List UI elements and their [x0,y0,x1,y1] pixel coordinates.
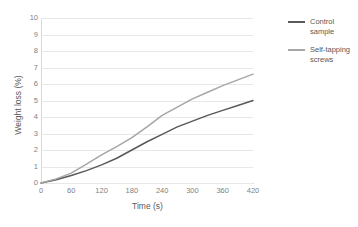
y-tick-label: 9 [4,31,38,39]
gridline [41,183,253,184]
legend-label: Control sample [310,17,354,36]
series-line [41,74,253,183]
legend-color-swatch [288,49,305,51]
x-tick-label: 120 [95,187,108,195]
y-tick-label: 0 [4,179,38,187]
x-tick-label: 180 [126,187,139,195]
x-tick-label: 60 [67,187,75,195]
x-tick-label: 0 [39,187,43,195]
series-line [41,101,253,184]
x-tick-label: 360 [216,187,229,195]
legend-color-swatch [288,21,305,23]
x-axis-title: Time (s) [41,201,254,211]
x-tick-label: 300 [186,187,199,195]
x-tick-label: 240 [156,187,169,195]
chart-legend: Control sampleSelf-tapping screws [288,17,358,73]
weight-loss-line-chart: 012345678910 060120180240300360420 Weigh… [0,0,358,227]
y-tick-label: 10 [4,14,38,22]
legend-item[interactable]: Control sample [288,17,358,36]
x-tick-label: 420 [247,187,260,195]
y-axis-title: Weight loss (%) [13,45,23,165]
series-lines [41,18,253,183]
legend-item[interactable]: Self-tapping screws [288,45,358,64]
plot-area [41,18,253,183]
legend-label: Self-tapping screws [310,45,354,64]
